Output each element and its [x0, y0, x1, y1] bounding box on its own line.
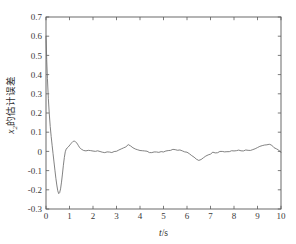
line-chart-plot: -0.3-0.2-0.100.10.20.30.40.50.60.7 01234…	[0, 0, 296, 244]
x-tick-label: 0	[44, 211, 49, 221]
y-axis-label-rest: 的估计误差	[6, 76, 16, 126]
x-tick-label: 9	[255, 211, 260, 221]
x-axis-tick-labels: 012345678910	[44, 211, 286, 221]
y-axis-label-variable: x	[6, 130, 16, 134]
data-line-x2-estimation-error	[46, 36, 281, 193]
y-tick-label: 0.1	[31, 127, 42, 137]
y-tick-label: 0.3	[31, 89, 43, 99]
x-axis-ticks	[46, 17, 281, 209]
y-axis-label: x2的估计误差	[2, 0, 20, 210]
y-tick-label: 0.5	[31, 51, 43, 61]
x-tick-label: 10	[277, 211, 287, 221]
plot-frame	[46, 17, 281, 209]
y-tick-label: 0.4	[31, 70, 43, 80]
chart-figure: -0.3-0.2-0.100.10.20.30.40.50.60.7 01234…	[0, 0, 296, 244]
x-tick-label: 7	[208, 211, 213, 221]
y-tick-label: 0.7	[31, 12, 43, 22]
y-axis-label-subscript: 2	[11, 126, 19, 130]
y-axis-tick-labels: -0.3-0.2-0.100.10.20.30.40.50.60.7	[28, 12, 43, 214]
x-tick-label: 4	[138, 211, 143, 221]
y-tick-label: -0.3	[28, 204, 43, 214]
axes-box	[46, 17, 281, 209]
x-tick-label: 5	[161, 211, 166, 221]
y-tick-label: 0	[38, 147, 43, 157]
y-tick-label: 0.6	[31, 31, 43, 41]
y-axis-label-text: x2的估计误差	[3, 76, 19, 134]
x-axis-label-rest: /s	[162, 228, 168, 238]
x-tick-label: 8	[232, 211, 237, 221]
y-tick-label: -0.2	[28, 185, 42, 195]
x-tick-label: 2	[91, 211, 96, 221]
y-tick-label: -0.1	[28, 166, 42, 176]
x-tick-label: 1	[67, 211, 72, 221]
y-tick-label: 0.2	[31, 108, 42, 118]
data-series-group	[46, 36, 281, 193]
y-axis-ticks	[46, 17, 281, 209]
x-tick-label: 6	[185, 211, 190, 221]
x-axis-label-text: t/s	[159, 228, 168, 238]
x-tick-label: 3	[114, 211, 119, 221]
x-axis-label: t/s	[46, 222, 281, 240]
